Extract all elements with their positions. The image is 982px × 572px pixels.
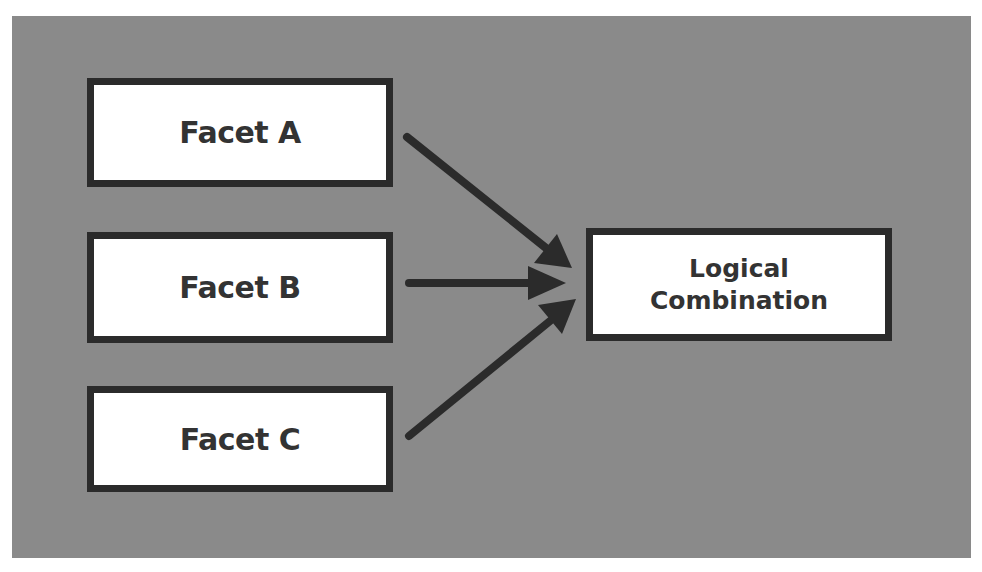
arrow-facet-b-icon <box>409 266 566 300</box>
arrows-layer <box>0 0 982 572</box>
arrow-facet-c-icon <box>409 299 576 436</box>
arrow-facet-a-icon <box>407 137 572 268</box>
